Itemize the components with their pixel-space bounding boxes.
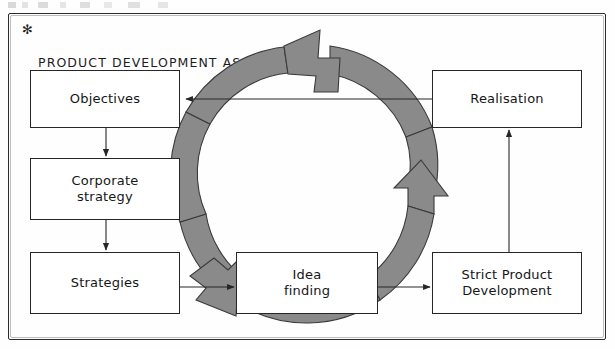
diagram-canvas: ✻ PRODUCT DEVELOPMENT AS A CYCLIC ACTIVI… (0, 0, 615, 349)
connector-layer (0, 0, 615, 349)
